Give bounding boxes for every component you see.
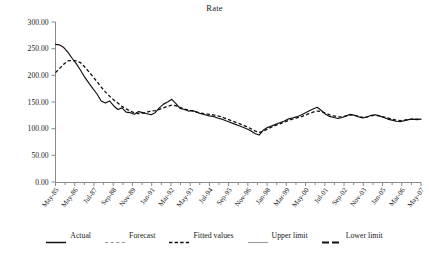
x-tick-label: Sep-02: [330, 186, 349, 207]
legend-item-label: Upper limit: [272, 232, 308, 240]
y-tick-label: 200.00: [28, 71, 49, 80]
x-tick-label: Sep-95: [215, 186, 234, 207]
legend-item-forecast[interactable]: Forecast: [105, 232, 155, 240]
x-tick-label: May-93: [175, 186, 195, 209]
x-tick-label: Jan-91: [139, 186, 157, 206]
legend-item-actual[interactable]: Actual: [46, 232, 91, 240]
x-tick-label: Nov-89: [118, 186, 138, 208]
legend-swatch-icon: [322, 232, 342, 239]
x-tick-label: May-00: [291, 186, 311, 209]
legend-item-label: Lower limit: [346, 232, 383, 240]
chart-figure: Rate 0.0050.00100.00150.00200.00250.0030…: [0, 0, 429, 260]
y-tick-label: 0.00: [35, 178, 48, 187]
x-tick-label: Nov-03: [349, 186, 369, 208]
chart-legend: ActualForecastFitted valuesUpper limitLo…: [0, 232, 429, 240]
x-tick-label: Sep-88: [100, 186, 119, 207]
y-tick-label: 50.00: [31, 151, 48, 160]
legend-swatch-icon: [46, 232, 66, 239]
data-series-group: [56, 44, 422, 135]
x-tick-label: Jan-98: [254, 186, 272, 206]
legend-item-upper-limit[interactable]: Upper limit: [248, 232, 308, 240]
y-tick-label: 100.00: [28, 124, 49, 133]
legend-swatch-icon: [169, 232, 189, 239]
x-tick-label: Mar-06: [388, 186, 408, 208]
y-tick-label: 250.00: [28, 44, 49, 53]
x-tick-label: May-07: [406, 186, 426, 209]
x-tick-label: Jul-94: [197, 186, 215, 205]
y-tick-label: 300.00: [28, 18, 49, 27]
y-axis: 0.0050.00100.00150.00200.00250.00300.00: [28, 18, 56, 187]
legend-item-lower-limit[interactable]: Lower limit: [322, 232, 383, 240]
y-axis-ticks: [52, 22, 56, 182]
legend-item-label: Actual: [70, 232, 91, 240]
x-tick-label: Mar-92: [157, 186, 177, 208]
y-tick-label: 150.00: [28, 98, 49, 107]
x-tick-label: May-86: [60, 186, 80, 209]
legend-swatch-icon: [105, 232, 125, 239]
x-axis: May-85May-86Jul-87Sep-88Nov-89Jan-91Mar-…: [40, 182, 426, 209]
x-tick-label: Mar-99: [272, 186, 292, 208]
series-line-actual: [56, 44, 422, 135]
x-tick-label: Jul-01: [313, 186, 331, 205]
series-line-fitted-values: [56, 60, 422, 132]
x-tick-label: May-85: [40, 186, 60, 209]
legend-item-fitted-values[interactable]: Fitted values: [169, 232, 233, 240]
y-axis-tick-labels: 0.0050.00100.00150.00200.00250.00300.00: [28, 18, 49, 187]
legend-item-label: Forecast: [129, 232, 155, 240]
legend-swatch-icon: [248, 232, 268, 239]
x-tick-label: Jul-87: [82, 186, 100, 205]
x-tick-label: Jan-05: [370, 186, 388, 206]
x-tick-label: Nov-96: [233, 186, 253, 208]
rate-line-chart: 0.0050.00100.00150.00200.00250.00300.00 …: [0, 0, 429, 232]
x-axis-tick-labels: May-85May-86Jul-87Sep-88Nov-89Jan-91Mar-…: [40, 186, 426, 209]
legend-item-label: Fitted values: [193, 232, 233, 240]
